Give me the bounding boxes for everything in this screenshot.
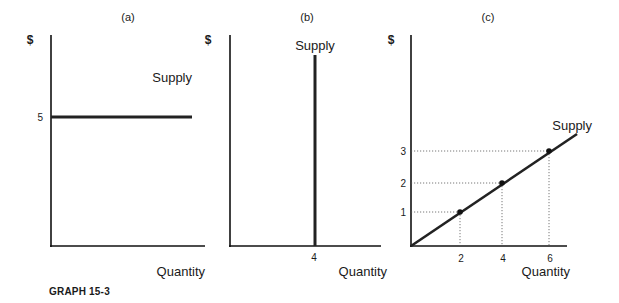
panel-a-x-axis-label: Quantity xyxy=(157,264,206,279)
panel-c-x-axis-label: Quantity xyxy=(522,264,571,279)
panel-c-y-tick-3: 3 xyxy=(400,146,406,157)
panel-b: (b) $ Supply 4 Quantity xyxy=(205,11,388,279)
panel-c: (c) $ 1 2 3 2 4 6 Supply Quantity xyxy=(388,11,593,279)
panel-c-x-tick-6: 6 xyxy=(547,253,553,264)
panel-c-x-tick-2: 2 xyxy=(458,253,464,264)
panel-c-y-axis-label: $ xyxy=(388,33,395,47)
panel-b-title: (b) xyxy=(300,11,313,23)
figure-caption: GRAPH 15-3 xyxy=(49,286,110,297)
panel-c-title: (c) xyxy=(482,11,495,23)
panel-a: (a) $ 5 Supply Quantity xyxy=(27,11,206,279)
panel-a-supply-label: Supply xyxy=(152,70,192,85)
panel-a-y-tick-5: 5 xyxy=(37,112,43,123)
panel-c-y-tick-1: 1 xyxy=(400,207,406,218)
panel-b-supply-label: Supply xyxy=(295,38,335,53)
panel-c-supply-label: Supply xyxy=(552,118,592,133)
panel-a-y-axis-label: $ xyxy=(27,33,34,47)
panel-b-x-tick-4: 4 xyxy=(311,252,317,263)
panel-b-y-axis-label: $ xyxy=(205,33,212,47)
panel-a-title: (a) xyxy=(121,11,134,23)
panel-c-point-4-2 xyxy=(499,180,505,186)
panel-c-point-2-1 xyxy=(457,209,463,215)
supply-elasticity-figure: (a) $ 5 Supply Quantity (b) $ Supply 4 Q… xyxy=(0,0,619,303)
panel-b-x-axis-label: Quantity xyxy=(339,264,388,279)
panel-c-y-tick-2: 2 xyxy=(400,178,406,189)
panel-c-x-tick-4: 4 xyxy=(500,253,506,264)
panel-c-point-6-3 xyxy=(546,148,552,154)
